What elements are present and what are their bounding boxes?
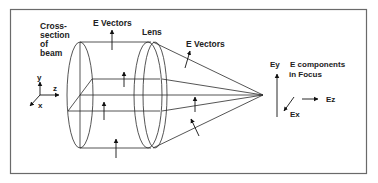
axis-y-label: y [37,73,42,82]
ray-upper [162,79,263,95]
e-components-label-line-2: in Focus [289,70,322,79]
axis-z-label: z [53,84,57,93]
e-vector-arrow-tilted-bottom [191,119,199,136]
ex-component-arrow [284,97,294,111]
e-vectors-left-label: E Vectors [93,18,132,28]
ray-top [153,42,263,95]
axis-x-label: x [38,101,43,110]
ex-label: Ex [290,110,300,119]
ey-label: Ey [270,60,280,69]
ray-lower [162,95,263,111]
cross-section-label-line-4: beam [40,48,63,58]
lens-label: Lens [142,27,162,37]
e-vectors-right-label: E Vectors [186,39,225,49]
ez-label: Ez [326,95,335,104]
beam-focusing-diagram: Cross- section of beam E Vectors Lens E … [0,0,378,183]
ray-bottom [153,95,263,148]
e-components-label-line-1: E components [290,60,346,69]
